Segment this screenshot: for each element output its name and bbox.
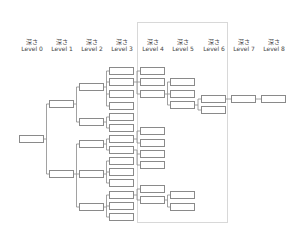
tree-node[interactable]	[49, 170, 74, 178]
tree-node[interactable]	[201, 95, 226, 103]
tree-node[interactable]	[79, 170, 104, 178]
tree-node[interactable]	[109, 102, 134, 110]
level-label: Level 0	[17, 45, 47, 52]
tree-node[interactable]	[109, 78, 134, 86]
level-header-4: 深さLevel 4	[138, 38, 168, 52]
tree-node[interactable]	[109, 124, 134, 132]
depth-label: 深さ	[47, 38, 77, 45]
tree-node[interactable]	[109, 157, 134, 165]
depth-label: 深さ	[259, 38, 289, 45]
tree-node[interactable]	[109, 146, 134, 154]
level-label: Level 6	[199, 45, 229, 52]
level-header-3: 深さLevel 3	[107, 38, 137, 52]
tree-node[interactable]	[109, 168, 134, 176]
tree-node[interactable]	[261, 95, 286, 103]
level-label: Level 3	[107, 45, 137, 52]
depth-label: 深さ	[77, 38, 107, 45]
tree-node[interactable]	[170, 101, 195, 109]
tree-node[interactable]	[109, 135, 134, 143]
tree-node[interactable]	[79, 118, 104, 126]
level-header-8: 深さLevel 8	[259, 38, 289, 52]
tree-node[interactable]	[79, 203, 104, 211]
tree-node[interactable]	[109, 213, 134, 221]
tree-node[interactable]	[201, 106, 226, 114]
tree-node[interactable]	[140, 78, 165, 86]
tree-diagram: 深さLevel 0深さLevel 1深さLevel 2深さLevel 3深さLe…	[0, 0, 307, 251]
tree-node[interactable]	[140, 185, 165, 193]
level-label: Level 7	[229, 45, 259, 52]
tree-node[interactable]	[170, 78, 195, 86]
level-header-1: 深さLevel 1	[47, 38, 77, 52]
tree-node[interactable]	[170, 191, 195, 199]
tree-node[interactable]	[140, 139, 165, 147]
level-label: Level 2	[77, 45, 107, 52]
tree-node[interactable]	[109, 202, 134, 210]
depth-label: 深さ	[138, 38, 168, 45]
level-label: Level 1	[47, 45, 77, 52]
level-header-6: 深さLevel 6	[199, 38, 229, 52]
depth-label: 深さ	[17, 38, 47, 45]
level-header-2: 深さLevel 2	[77, 38, 107, 52]
tree-node[interactable]	[109, 90, 134, 98]
depth-label: 深さ	[199, 38, 229, 45]
level-header-0: 深さLevel 0	[17, 38, 47, 52]
level-header-5: 深さLevel 5	[168, 38, 198, 52]
tree-node[interactable]	[140, 67, 165, 75]
level-label: Level 4	[138, 45, 168, 52]
tree-node[interactable]	[49, 100, 74, 108]
level-header-7: 深さLevel 7	[229, 38, 259, 52]
tree-node[interactable]	[79, 140, 104, 148]
tree-node[interactable]	[19, 135, 44, 143]
depth-label: 深さ	[229, 38, 259, 45]
tree-node[interactable]	[170, 90, 195, 98]
tree-node[interactable]	[140, 196, 165, 204]
tree-node[interactable]	[109, 191, 134, 199]
tree-node[interactable]	[109, 67, 134, 75]
tree-node[interactable]	[231, 95, 256, 103]
level-label: Level 8	[259, 45, 289, 52]
depth-label: 深さ	[168, 38, 198, 45]
depth-label: 深さ	[107, 38, 137, 45]
level-label: Level 5	[168, 45, 198, 52]
tree-node[interactable]	[170, 203, 195, 211]
tree-node[interactable]	[140, 150, 165, 158]
tree-node[interactable]	[140, 90, 165, 98]
tree-node[interactable]	[109, 179, 134, 187]
tree-node[interactable]	[140, 127, 165, 135]
tree-node[interactable]	[79, 83, 104, 91]
tree-node[interactable]	[109, 113, 134, 121]
tree-node[interactable]	[140, 161, 165, 169]
